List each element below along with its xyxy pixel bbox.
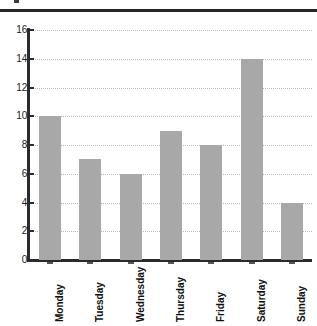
- x-tick-label: Wednesday: [136, 267, 146, 322]
- x-tick-mark: [47, 262, 53, 264]
- x-tick-mark: [289, 262, 295, 264]
- x-tick-label: Thursday: [176, 277, 186, 322]
- x-tick-label: Tuesday: [95, 282, 105, 322]
- bar-monday[interactable]: [39, 116, 61, 260]
- x-tick-mark: [168, 262, 174, 264]
- x-tick-label: Sunday: [297, 286, 307, 322]
- x-tick-mark: [208, 262, 214, 264]
- x-axis-labels: MondayTuesdayWednesdayThursdayFridaySatu…: [0, 262, 317, 326]
- page-crop-artifact: [14, 0, 19, 3]
- bar-friday[interactable]: [200, 145, 222, 260]
- x-tick-mark: [249, 262, 255, 264]
- bar-chart: 0246810121416 MondayTuesdayWednesdayThur…: [0, 0, 317, 326]
- x-tick-label: Monday: [55, 284, 65, 322]
- top-horizontal-rule: [0, 9, 317, 12]
- bar-saturday[interactable]: [241, 59, 263, 260]
- x-tick-mark: [87, 262, 93, 264]
- plot-area: 0246810121416 MondayTuesdayWednesdayThur…: [0, 18, 317, 326]
- bar-sunday[interactable]: [281, 203, 303, 261]
- x-tick-label: Saturday: [257, 279, 267, 322]
- bar-wednesday[interactable]: [120, 174, 142, 260]
- bar-tuesday[interactable]: [79, 159, 101, 260]
- x-tick-label: Friday: [216, 292, 226, 322]
- bars-layer: [0, 18, 317, 268]
- bar-thursday[interactable]: [160, 131, 182, 260]
- x-tick-mark: [128, 262, 134, 264]
